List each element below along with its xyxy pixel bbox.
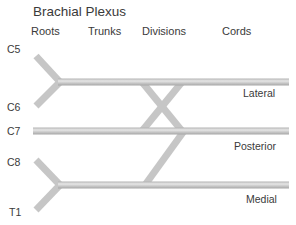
upper-trunk-lateral-cord	[58, 79, 289, 86]
cord-label-lateral: Lateral	[243, 88, 275, 99]
root-c8-nerve	[36, 160, 60, 185]
division-lower-posterior	[145, 131, 184, 185]
root-label-c8: C8	[7, 157, 20, 168]
lower-trunk-medial-cord	[58, 182, 289, 189]
root-c5-nerve	[36, 56, 60, 82]
root-label-t1: T1	[9, 207, 21, 218]
cord-label-medial: Medial	[246, 194, 277, 205]
brachial-plexus-diagram	[0, 0, 296, 225]
root-t1-nerve	[36, 185, 60, 210]
root-label-c5: C5	[7, 44, 20, 55]
root-label-c7: C7	[7, 126, 20, 137]
cord-label-posterior: Posterior	[234, 141, 276, 152]
middle-trunk-posterior-cord	[33, 128, 289, 135]
root-label-c6: C6	[7, 102, 20, 113]
root-c6-nerve	[36, 82, 60, 106]
